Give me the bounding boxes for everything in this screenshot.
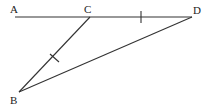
- label-c: C: [84, 3, 91, 15]
- label-d: D: [193, 4, 201, 16]
- label-a: A: [10, 3, 18, 15]
- segment-bd: [19, 17, 192, 92]
- label-b: B: [10, 94, 17, 106]
- geometry-diagram: A C D B: [0, 0, 206, 111]
- segment-cb: [19, 17, 90, 92]
